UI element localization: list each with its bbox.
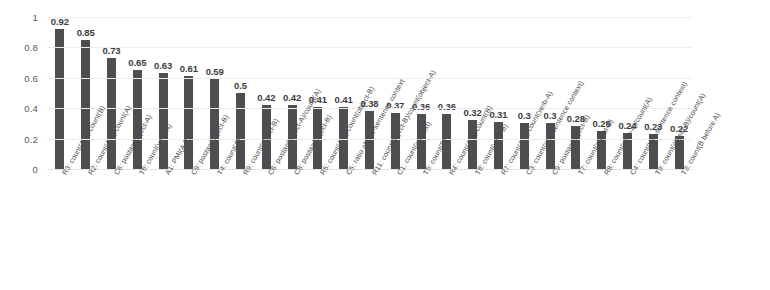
- bar-value-label: 0.41: [335, 94, 353, 105]
- bar-value-label: 0.61: [180, 63, 198, 74]
- bar-value-label: 0.42: [283, 92, 301, 103]
- y-axis: 00.20.40.60.81: [0, 17, 42, 169]
- bar-value-label: 0.5: [234, 80, 247, 91]
- y-axis-tick-label: 0.2: [24, 133, 38, 144]
- bar-value-label: 0.42: [257, 92, 275, 103]
- x-axis-category-labels: R3: count(A,B)/count(B)R2: count(A,B)/co…: [47, 172, 692, 290]
- bar-chart: 00.20.40.60.81 0.920.850.730.650.630.610…: [0, 0, 770, 290]
- y-axis-tick-label: 0.4: [24, 103, 38, 114]
- bar: [133, 70, 142, 169]
- bar-value-label: 0.63: [154, 60, 172, 71]
- bar: [236, 93, 245, 169]
- y-axis-tick-label: 0.8: [24, 42, 38, 53]
- gridline: [47, 17, 692, 18]
- y-axis-tick-label: 0: [33, 164, 38, 175]
- gridline: [47, 78, 692, 79]
- gridline: [47, 47, 692, 48]
- bar-value-label: 0.65: [128, 57, 146, 68]
- bar: [55, 29, 64, 169]
- y-axis-tick-label: 0.6: [24, 72, 38, 83]
- bar-value-label: 0.85: [77, 27, 95, 38]
- bar: [107, 58, 116, 169]
- bar-value-label: 0.59: [206, 66, 224, 77]
- gridline: [47, 108, 692, 109]
- bar-slot: 0.92: [47, 17, 73, 169]
- bar-value-label: 0.36: [438, 101, 456, 112]
- bar: [184, 76, 193, 169]
- y-axis-tick-label: 1: [33, 12, 38, 23]
- bar: [159, 73, 168, 169]
